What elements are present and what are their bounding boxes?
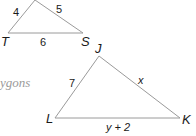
side-label-x: x	[137, 74, 144, 86]
section-caption: ygons	[0, 75, 30, 90]
vertex-label-l: L	[46, 111, 53, 126]
side-label-7: 7	[69, 77, 75, 89]
vertex-label-j: J	[94, 41, 102, 56]
side-label-4: 4	[13, 6, 19, 18]
side-label-y-plus-2: y + 2	[105, 121, 130, 133]
vertex-label-k: K	[182, 112, 192, 127]
triangle-rst: 4 5 6 T S	[1, 0, 90, 49]
vertex-label-t: T	[1, 34, 10, 49]
side-label-5: 5	[56, 3, 62, 15]
triangle-rst-edges	[8, 0, 83, 33]
side-label-6: 6	[40, 36, 46, 48]
vertex-label-s: S	[81, 34, 90, 49]
similar-triangles-diagram: 4 5 6 T S ygons J L K 7 x y + 2	[0, 0, 196, 136]
triangle-jkl: J L K 7 x y + 2	[46, 41, 192, 133]
